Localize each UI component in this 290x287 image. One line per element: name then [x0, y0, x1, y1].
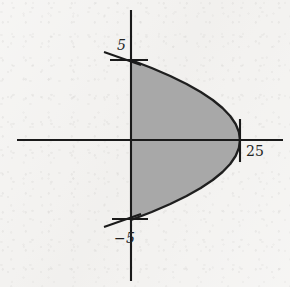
tick-slash-y-negative-5 — [104, 214, 141, 227]
figure-canvas: 5 −5 25 — [0, 0, 290, 287]
axis-label-x-25: 25 — [246, 144, 264, 158]
tick-slash-y-positive-5 — [104, 52, 141, 65]
axis-label-y-negative-5: −5 — [114, 231, 135, 245]
axis-label-y-positive-5: 5 — [117, 38, 126, 52]
